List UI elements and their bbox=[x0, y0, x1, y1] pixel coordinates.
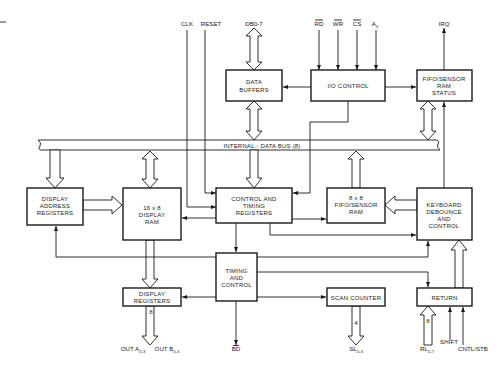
dar-ram-arrow bbox=[83, 196, 122, 214]
shift-label: SHIFT bbox=[440, 338, 458, 345]
svg-text:CONTROL: CONTROL bbox=[221, 282, 252, 288]
block-fifo-sensor-ram-status: FIFO/SENSOR RAM STATUS bbox=[417, 70, 472, 101]
block-keyboard-debounce-control: KEYBOARD DEBOUNCE AND CONTROL bbox=[417, 188, 472, 240]
out-b-label: OUT B0-3 bbox=[155, 345, 181, 354]
block-return: RETURN bbox=[417, 288, 472, 306]
return-width: 8 bbox=[426, 317, 430, 324]
internal-data-bus: INTERNAL - DATA BUS (8) bbox=[38, 140, 440, 150]
bd-label: BD bbox=[232, 345, 241, 352]
irq-label: IRQ bbox=[438, 20, 449, 27]
svg-text:16 x 8: 16 x 8 bbox=[143, 205, 161, 211]
svg-text:DISPLAY: DISPLAY bbox=[139, 212, 165, 218]
cntl-stb-label: CNTL/STB bbox=[458, 345, 488, 352]
scan-width: 4 bbox=[354, 319, 358, 326]
svg-text:I/O CONTROL: I/O CONTROL bbox=[327, 83, 369, 89]
svg-text:TIMING: TIMING bbox=[225, 268, 247, 274]
svg-text:RAM: RAM bbox=[349, 209, 363, 215]
svg-text:8 x 8: 8 x 8 bbox=[349, 195, 363, 201]
block-scan-counter: SCAN COUNTER bbox=[327, 288, 385, 306]
db-label: DB0-7 bbox=[245, 20, 263, 27]
svg-text:CONTROL: CONTROL bbox=[429, 223, 460, 229]
svg-text:KEYBOARD: KEYBOARD bbox=[427, 202, 462, 208]
block-timing-and-control: TIMING AND CONTROL bbox=[216, 253, 257, 301]
svg-text:AND: AND bbox=[230, 275, 244, 281]
return-kbd-arrow bbox=[451, 240, 467, 288]
block-data-buffers: DATA BUFFERS bbox=[226, 70, 282, 101]
svg-text:REGISTERS: REGISTERS bbox=[134, 298, 170, 304]
svg-text:REGISTERS: REGISTERS bbox=[37, 210, 73, 216]
svg-text:DISPLAY: DISPLAY bbox=[42, 196, 68, 202]
block-diagram: INTERNAL - DATA BUS (8) bbox=[0, 0, 501, 369]
svg-text:SCAN COUNTER: SCAN COUNTER bbox=[331, 295, 382, 301]
svg-text:RAM: RAM bbox=[145, 219, 159, 225]
rl-return-arrow bbox=[420, 306, 436, 345]
svg-text:RETURN: RETURN bbox=[431, 295, 457, 301]
bus-ram-arrow bbox=[142, 151, 158, 188]
svg-text:DISPLAY: DISPLAY bbox=[139, 291, 165, 297]
block-display-ram: 16 x 8 DISPLAY RAM bbox=[123, 188, 181, 240]
sl-label: SL0-3 bbox=[349, 345, 363, 354]
rd-label: RD bbox=[315, 20, 324, 27]
svg-text:STATUS: STATUS bbox=[432, 90, 456, 96]
block-control-timing-registers: CONTROL AND TIMING REGISTERS bbox=[216, 188, 292, 223]
svg-text:BUFFERS: BUFFERS bbox=[239, 87, 268, 93]
kbd-fifo-arrow bbox=[385, 196, 417, 214]
wr-label: WR bbox=[333, 20, 344, 27]
block-display-address-registers: DISPLAY ADDRESS REGISTERS bbox=[27, 188, 83, 225]
block-fifo-sensor-ram: 8 x 8 FIFO/SENSOR RAM bbox=[327, 188, 385, 223]
svg-text:ADDRESS: ADDRESS bbox=[40, 203, 70, 209]
bus-label: INTERNAL - DATA BUS (8) bbox=[223, 143, 300, 149]
buffers-bus-arrow bbox=[246, 101, 262, 140]
out-a-label: OUT A0-3 bbox=[121, 345, 146, 354]
db-bus-arrow bbox=[246, 28, 262, 70]
cs-label: CS bbox=[353, 20, 362, 27]
bus-dar-arrow bbox=[46, 150, 64, 188]
block-io-control: I/O CONTROL bbox=[311, 70, 385, 101]
svg-text:DATA: DATA bbox=[246, 79, 262, 85]
clk-label: CLK bbox=[181, 20, 194, 27]
fifo-status-bus-arrow bbox=[420, 101, 436, 140]
fifo-ram-bus-arrow bbox=[348, 151, 364, 188]
display-width: 8 bbox=[149, 308, 153, 315]
svg-text:RAM: RAM bbox=[437, 83, 451, 89]
svg-text:REGISTERS: REGISTERS bbox=[236, 210, 272, 216]
svg-text:FIFO/SENSOR: FIFO/SENSOR bbox=[423, 76, 466, 82]
rl-label: RL0-7 bbox=[420, 345, 435, 354]
svg-text:TIMING: TIMING bbox=[243, 203, 265, 209]
block-display-registers: DISPLAY REGISTERS bbox=[123, 288, 181, 306]
svg-text:DEBOUNCE: DEBOUNCE bbox=[426, 209, 462, 215]
reset-label: RESET bbox=[201, 20, 222, 27]
ram-dispreg-arrow bbox=[142, 240, 158, 288]
svg-text:AND: AND bbox=[437, 216, 451, 222]
bus-control-arrow bbox=[246, 150, 262, 188]
a0-label: A0 bbox=[372, 20, 379, 29]
svg-text:CONTROL AND: CONTROL AND bbox=[231, 196, 277, 202]
svg-text:FIFO/SENSOR: FIFO/SENSOR bbox=[335, 202, 378, 208]
